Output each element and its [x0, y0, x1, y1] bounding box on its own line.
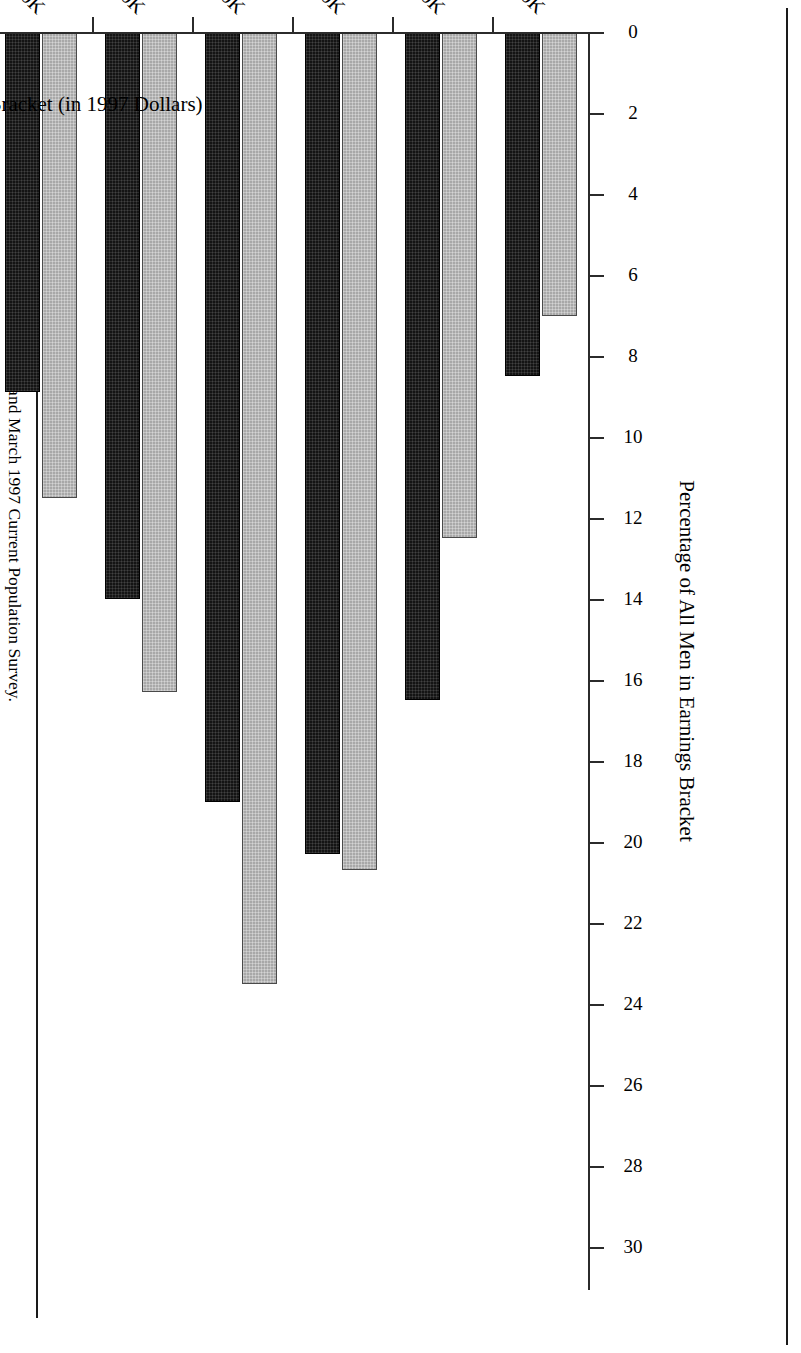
category-axis-title: Total Earnings Bracket (in 1997 Dollars): [0, 91, 203, 117]
value-axis: Percentage of All Men in Earnings Bracke…: [588, 32, 740, 1290]
bar-1979[interactable]: [542, 32, 577, 316]
bar-1996[interactable]: [5, 32, 40, 392]
bar-group: >$40-$50K: [94, 32, 180, 1247]
value-tick: [589, 761, 604, 763]
category-label: >$50-$60K: [0, 0, 50, 18]
value-tick: [589, 1166, 604, 1168]
category-axis-line: [0, 32, 588, 34]
bar-1979[interactable]: [242, 32, 277, 984]
value-tick-label: 0: [613, 21, 653, 43]
bar-group: >$10-$20K: [394, 32, 480, 1247]
value-tick-label: 20: [613, 831, 653, 853]
category-tick: [392, 17, 394, 32]
value-tick-label: 2: [613, 102, 653, 124]
value-tick: [589, 680, 604, 682]
bar-group: >$30-$40K: [194, 32, 280, 1247]
value-tick: [589, 356, 604, 358]
value-tick-label: 4: [613, 183, 653, 205]
value-tick-label: 8: [613, 345, 653, 367]
value-tick: [589, 275, 604, 277]
category-tick: [192, 17, 194, 32]
bar-group: >$20-$30K: [294, 32, 380, 1247]
value-tick-label: 6: [613, 264, 653, 286]
value-axis-title: Percentage of All Men in Earnings Bracke…: [674, 32, 700, 1290]
category-tick: [92, 17, 94, 32]
bar-1996[interactable]: [505, 32, 540, 376]
value-tick: [589, 113, 604, 115]
value-tick: [589, 437, 604, 439]
bar-1996[interactable]: [105, 32, 140, 599]
figure-right-rule: [786, 8, 788, 1345]
value-tick-label: 16: [613, 669, 653, 691]
bar-1979[interactable]: [342, 32, 377, 870]
value-tick-label: 24: [613, 993, 653, 1015]
value-tick: [589, 923, 604, 925]
value-tick-label: 10: [613, 426, 653, 448]
bar-1979[interactable]: [442, 32, 477, 538]
value-tick-label: 22: [613, 912, 653, 934]
value-tick-label: 18: [613, 750, 653, 772]
bar-1996[interactable]: [405, 32, 440, 700]
category-label: >$30-$40K: [168, 0, 250, 18]
bar-group: >$50-$60K: [0, 32, 80, 1247]
bar-1996[interactable]: [205, 32, 240, 802]
value-tick-label: 14: [613, 588, 653, 610]
value-tick: [589, 1247, 604, 1249]
bar-group: $1-$10K: [494, 32, 580, 1247]
value-tick-label: 30: [613, 1236, 653, 1258]
category-label: >$20-$30K: [268, 0, 350, 18]
value-tick-label: 26: [613, 1074, 653, 1096]
bar-1979[interactable]: [142, 32, 177, 692]
category-label: >$40-$50K: [68, 0, 150, 18]
value-tick-label: 12: [613, 507, 653, 529]
value-tick: [589, 32, 604, 34]
value-tick: [589, 1004, 604, 1006]
value-tick: [589, 599, 604, 601]
value-tick: [589, 1085, 604, 1087]
plot-area: Percentage of All Men in Earnings Bracke…: [0, 32, 740, 1322]
value-tick-label: 28: [613, 1155, 653, 1177]
value-tick: [589, 194, 604, 196]
category-tick: [492, 17, 494, 32]
chart-canvas: Percentage of All Men in Earnings Bracke…: [0, 32, 740, 1322]
value-tick: [589, 842, 604, 844]
bar-1996[interactable]: [305, 32, 340, 854]
value-axis-line: [588, 32, 590, 1290]
category-tick: [292, 17, 294, 32]
category-label: >$10-$20K: [368, 0, 450, 18]
category-label: $1-$10K: [483, 0, 550, 18]
value-tick: [589, 518, 604, 520]
